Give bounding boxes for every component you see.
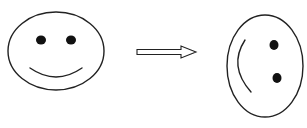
face-upright-right-eye bbox=[66, 36, 76, 45]
face-rotated-bottom-eye bbox=[273, 73, 282, 83]
diagram-canvas: Smiley face rotated 90 degrees clockwise… bbox=[0, 0, 307, 128]
face-upright-outline bbox=[8, 12, 104, 90]
transform-arrow-icon bbox=[137, 46, 196, 58]
diagram-svg bbox=[0, 0, 307, 128]
face-rotated bbox=[227, 15, 303, 117]
face-upright bbox=[8, 12, 104, 90]
face-rotated-mouth bbox=[238, 40, 251, 92]
face-rotated-top-eye bbox=[270, 40, 279, 50]
face-upright-left-eye bbox=[36, 36, 46, 45]
face-upright-mouth bbox=[30, 68, 82, 77]
